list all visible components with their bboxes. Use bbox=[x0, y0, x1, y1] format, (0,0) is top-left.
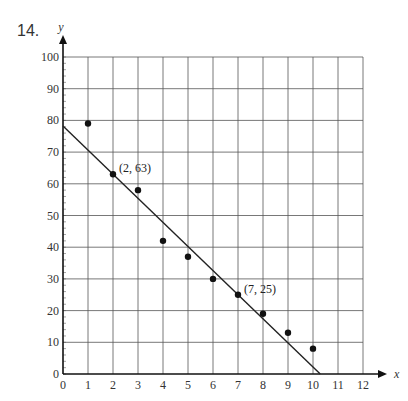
x-tick-label: 2 bbox=[110, 378, 116, 392]
data-point bbox=[160, 238, 166, 244]
y-tick-label: 40 bbox=[47, 240, 59, 254]
x-axis-label: x bbox=[393, 367, 400, 381]
y-tick-label: 30 bbox=[47, 272, 59, 286]
x-tick-label: 7 bbox=[235, 378, 241, 392]
x-tick-label: 8 bbox=[260, 378, 266, 392]
data-point bbox=[135, 187, 141, 193]
x-axis-arrow-icon bbox=[378, 370, 387, 378]
point-annotation: (2, 63) bbox=[119, 161, 151, 175]
y-tick-label: 60 bbox=[47, 177, 59, 191]
x-tick-label: 9 bbox=[285, 378, 291, 392]
y-tick-label: 70 bbox=[47, 145, 59, 159]
x-tick-label: 4 bbox=[160, 378, 166, 392]
y-tick-label: 90 bbox=[47, 82, 59, 96]
scatter-chart: yx01234567891011120102030405060708090100… bbox=[0, 0, 408, 401]
y-tick-label: 10 bbox=[47, 335, 59, 349]
x-tick-label: 1 bbox=[85, 378, 91, 392]
y-tick-label: 0 bbox=[53, 367, 59, 381]
y-tick-label: 50 bbox=[47, 209, 59, 223]
data-point bbox=[110, 171, 116, 177]
x-tick-label: 3 bbox=[135, 378, 141, 392]
y-tick-label: 20 bbox=[47, 304, 59, 318]
data-point bbox=[210, 276, 216, 282]
x-tick-label: 5 bbox=[185, 378, 191, 392]
x-tick-label: 0 bbox=[60, 378, 66, 392]
data-point bbox=[235, 292, 241, 298]
x-tick-label: 12 bbox=[357, 378, 369, 392]
line-of-best-fit bbox=[63, 126, 320, 374]
data-point bbox=[85, 120, 91, 126]
data-point bbox=[185, 254, 191, 260]
y-tick-label: 100 bbox=[41, 50, 59, 64]
y-axis-arrow-icon bbox=[59, 35, 67, 44]
x-tick-label: 11 bbox=[332, 378, 344, 392]
y-axis-label: y bbox=[57, 20, 64, 34]
data-point bbox=[260, 311, 266, 317]
data-point bbox=[310, 345, 316, 351]
x-tick-label: 6 bbox=[210, 378, 216, 392]
point-annotation: (7, 25) bbox=[244, 282, 276, 296]
y-tick-label: 80 bbox=[47, 113, 59, 127]
data-point bbox=[285, 330, 291, 336]
x-tick-label: 10 bbox=[307, 378, 319, 392]
